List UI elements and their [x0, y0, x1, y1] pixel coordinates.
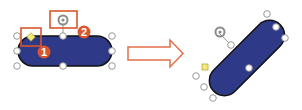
right-arrow-icon: [128, 40, 183, 67]
resize-handle-left[interactable]: [14, 48, 21, 55]
rotated-handle-6[interactable]: [193, 73, 200, 80]
rotated-handle-1[interactable]: [264, 11, 271, 18]
callout-badge-2: 2: [78, 26, 91, 39]
diagram-canvas: 1 2: [0, 0, 302, 110]
rotated-adjustment-handle-icon[interactable]: [202, 64, 208, 70]
callout-badge-1-label: 1: [41, 46, 47, 58]
callout-badge-2-label: 2: [81, 26, 87, 38]
resize-handle-top-right[interactable]: [109, 33, 116, 40]
callout-badge-1: 1: [38, 46, 51, 59]
resize-handle-top-left[interactable]: [14, 33, 21, 40]
resize-handle-bottom-left[interactable]: [14, 63, 21, 70]
rotated-handle-3[interactable]: [282, 35, 289, 42]
resize-handle-bottom[interactable]: [60, 63, 67, 70]
rotated-handle-8[interactable]: [210, 95, 217, 102]
rotated-handle-4[interactable]: [228, 42, 235, 49]
rotated-handle-5[interactable]: [246, 65, 253, 72]
resize-handle-right[interactable]: [109, 48, 116, 55]
rotated-handle-7[interactable]: [201, 84, 208, 91]
after-shape-group: [193, 11, 291, 102]
resize-handle-top[interactable]: [60, 33, 67, 40]
rotation-handle-center: [61, 18, 64, 21]
resize-handle-bottom-right[interactable]: [109, 63, 116, 70]
rotated-rotation-handle-center: [218, 30, 221, 33]
before-shape-group: [14, 16, 116, 70]
rotated-handle-2[interactable]: [273, 24, 280, 31]
